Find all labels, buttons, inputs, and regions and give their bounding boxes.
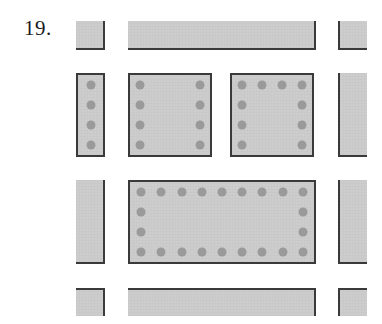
reinforcement-dot xyxy=(298,247,307,256)
middle-left-column xyxy=(76,73,105,157)
texture-overlay xyxy=(340,290,367,316)
lower-left-column xyxy=(76,180,105,264)
reinforcement-dot xyxy=(86,120,95,129)
reinforcement-dot xyxy=(136,120,145,129)
texture-overlay xyxy=(76,21,103,48)
middle-right-slab xyxy=(230,73,314,157)
reinforcement-dot xyxy=(136,140,145,149)
reinforcement-dot xyxy=(157,187,166,196)
reinforcement-dot xyxy=(137,227,146,236)
middle-center-slab xyxy=(128,73,212,157)
reinforcement-dot xyxy=(195,140,204,149)
reinforcement-dot xyxy=(195,80,204,89)
texture-overlay xyxy=(340,21,367,48)
texture-overlay xyxy=(76,180,103,262)
reinforcement-dot xyxy=(258,247,267,256)
reinforcement-dot xyxy=(195,101,204,110)
reinforcement-dot xyxy=(257,80,266,89)
texture-overlay xyxy=(340,73,367,155)
bottom-right-column xyxy=(338,288,367,316)
reinforcement-dot xyxy=(297,120,306,129)
reinforcement-dot xyxy=(238,187,247,196)
reinforcement-dot xyxy=(218,187,227,196)
reinforcement-dot xyxy=(238,101,247,110)
reinforcement-dot xyxy=(297,140,306,149)
reinforcement-dot xyxy=(86,80,95,89)
reinforcement-dot xyxy=(238,247,247,256)
reinforcement-dot xyxy=(218,247,227,256)
top-left-column xyxy=(76,21,105,50)
reinforcement-dot xyxy=(278,247,287,256)
reinforcement-dot xyxy=(86,140,95,149)
reinforcement-dot xyxy=(238,80,247,89)
problem-number-label: 19. xyxy=(24,18,52,39)
structural-grid-figure: 19. xyxy=(0,0,382,324)
top-horizontal-beam xyxy=(128,21,316,50)
bottom-left-column xyxy=(76,288,105,316)
bottom-horizontal-beam xyxy=(128,288,316,316)
reinforcement-dot xyxy=(297,80,306,89)
reinforcement-dot xyxy=(197,187,206,196)
lower-center-slab xyxy=(128,180,316,264)
reinforcement-dot xyxy=(137,187,146,196)
reinforcement-dot xyxy=(177,247,186,256)
texture-overlay xyxy=(76,290,103,316)
reinforcement-dot xyxy=(277,80,286,89)
reinforcement-dot xyxy=(136,80,145,89)
reinforcement-dot xyxy=(298,187,307,196)
lower-far-right-column xyxy=(338,180,367,264)
reinforcement-dot xyxy=(298,208,307,217)
texture-overlay xyxy=(128,290,314,316)
reinforcement-dot xyxy=(137,247,146,256)
reinforcement-dot xyxy=(86,101,95,110)
reinforcement-dot xyxy=(258,187,267,196)
reinforcement-dot xyxy=(197,247,206,256)
reinforcement-dot xyxy=(195,120,204,129)
top-right-column xyxy=(338,21,367,50)
reinforcement-dot xyxy=(238,120,247,129)
texture-overlay xyxy=(340,180,367,262)
reinforcement-dot xyxy=(157,247,166,256)
reinforcement-dot xyxy=(278,187,287,196)
middle-far-right-column xyxy=(338,73,367,157)
reinforcement-dot xyxy=(177,187,186,196)
texture-overlay xyxy=(128,21,314,48)
reinforcement-dot xyxy=(238,140,247,149)
reinforcement-dot xyxy=(136,101,145,110)
reinforcement-dot xyxy=(297,101,306,110)
reinforcement-dot xyxy=(298,227,307,236)
reinforcement-dot xyxy=(137,208,146,217)
